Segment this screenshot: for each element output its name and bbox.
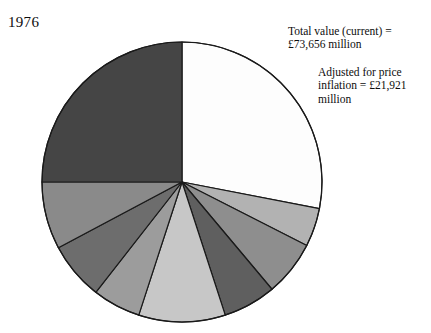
pie-slice [42,42,182,182]
annotation-total-value: Total value (current) = £73,656 million [288,25,430,52]
chart-page: 1976 Total value (current) = £73,656 mil… [0,0,431,333]
annotation-adjusted-value: Adjusted for price inflation = £21,921 m… [318,66,430,106]
pie-slice [182,42,322,209]
pie-slice-group [42,42,322,322]
